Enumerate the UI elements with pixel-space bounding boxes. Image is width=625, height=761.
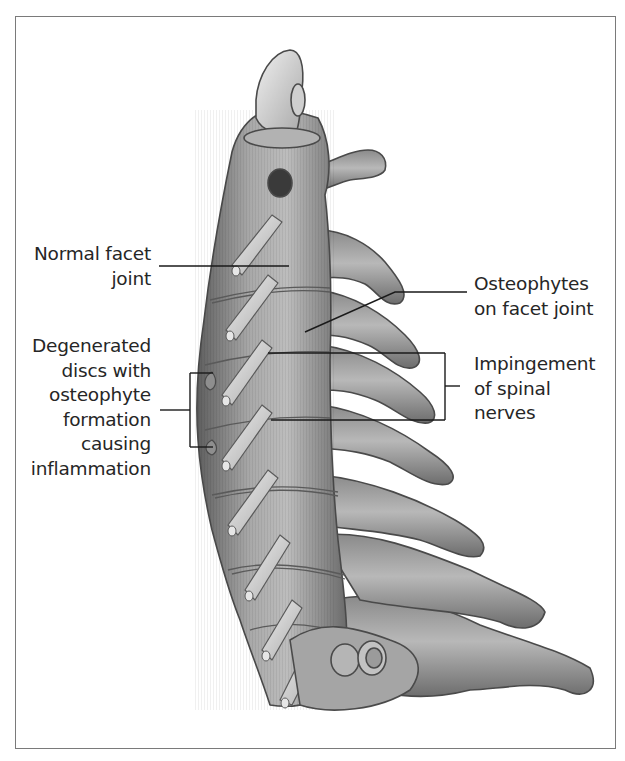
label-normal-facet-joint: Normal facet joint — [34, 242, 151, 291]
atlas-ring — [244, 128, 320, 148]
label-line: on facet joint — [474, 297, 593, 322]
label-line: formation — [31, 408, 151, 433]
label-impingement-nerves: Impingement of spinal nerves — [474, 352, 595, 426]
transverse-foramen — [268, 169, 292, 197]
label-line: joint — [34, 267, 151, 292]
label-osteophytes-facet: Osteophytes on facet joint — [474, 272, 593, 321]
label-degenerated-discs: Degenerated discs with osteophyte format… — [31, 334, 151, 482]
label-line: nerves — [474, 401, 595, 426]
label-line: Impingement — [474, 352, 595, 377]
label-line: inflammation — [31, 457, 151, 482]
label-line: discs with — [31, 359, 151, 384]
dens-facet — [291, 84, 305, 116]
label-line: Degenerated — [31, 334, 151, 359]
label-line: Osteophytes — [474, 272, 593, 297]
label-line: causing — [31, 432, 151, 457]
label-line: of spinal — [474, 377, 595, 402]
label-line: Normal facet — [34, 242, 151, 267]
label-line: osteophyte — [31, 383, 151, 408]
